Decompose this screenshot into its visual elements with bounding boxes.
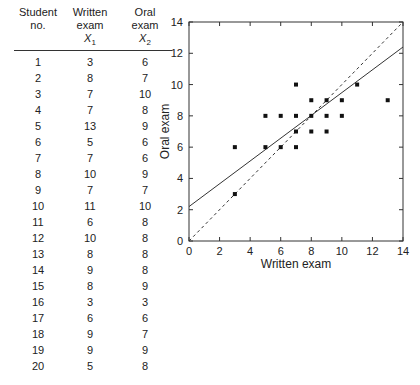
y-axis-label: Oral exam [158,104,172,159]
x-tick-label: 14 [397,245,409,257]
data-point [340,114,344,118]
data-point [294,83,298,87]
x-tick-label: 10 [336,245,348,257]
y-tick-label: 4 [177,172,183,184]
data-point [233,145,237,149]
data-point [340,98,344,102]
x-tick-label: 8 [308,245,314,257]
data-point [294,130,298,134]
data-point [309,114,313,118]
data-point [309,130,313,134]
data-point [325,98,329,102]
y-tick-label: 0 [177,235,183,247]
y-tick-label: 10 [171,79,183,91]
data-point [279,114,283,118]
data-point [263,145,267,149]
x-tick-label: 2 [217,245,223,257]
scatter-chart: 0246810121402468101214Written examOral e… [0,0,420,385]
y-tick-label: 14 [171,16,183,28]
data-point [263,114,267,118]
x-tick-label: 4 [247,245,253,257]
data-point [294,145,298,149]
y-tick-label: 12 [171,47,183,59]
data-point [309,98,313,102]
y-tick-label: 8 [177,110,183,122]
data-point [294,114,298,118]
x-tick-label: 0 [186,245,192,257]
data-point [279,145,283,149]
x-axis-label: Written exam [261,257,331,271]
y-tick-label: 2 [177,204,183,216]
data-point [233,192,237,196]
y-tick-label: 6 [177,141,183,153]
x-tick-label: 6 [278,245,284,257]
regression-line [189,47,403,207]
x-tick-label: 12 [366,245,378,257]
data-point [325,114,329,118]
data-point [355,83,359,87]
data-point [386,98,390,102]
data-point [325,130,329,134]
